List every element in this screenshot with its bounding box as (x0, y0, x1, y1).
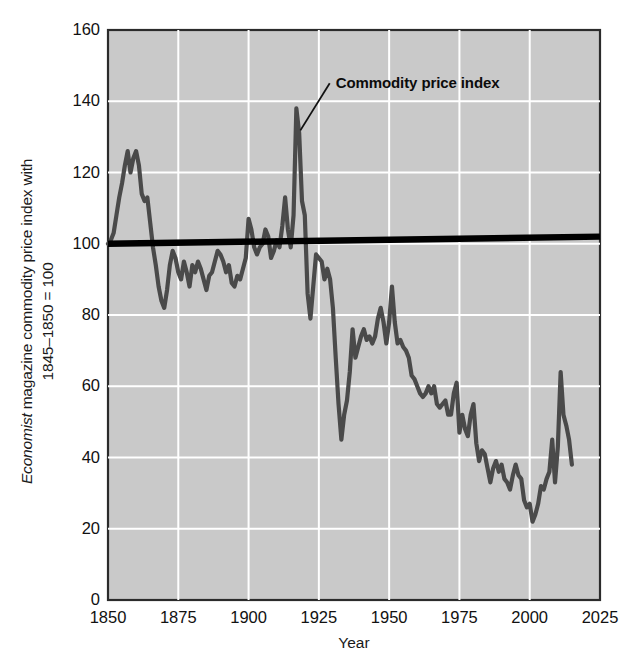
y-tick-label-140: 140 (44, 91, 100, 110)
y-tick-label-100: 100 (44, 234, 100, 253)
x-tick-label-2000: 2000 (495, 608, 565, 627)
x-tick-label-1875: 1875 (143, 608, 213, 627)
x-tick-label-1900: 1900 (214, 608, 284, 627)
annotation-commodity-price-index: Commodity price index (336, 74, 500, 91)
x-tick-label-1925: 1925 (284, 608, 354, 627)
y-tick-label-120: 120 (44, 163, 100, 182)
y-tick-label-80: 80 (44, 305, 100, 324)
y-tick-label-160: 160 (44, 20, 100, 39)
x-tick-label-1975: 1975 (424, 608, 494, 627)
commodity-price-index-chart: Economist magazine commodity price index… (0, 0, 634, 664)
y-tick-label-20: 20 (44, 519, 100, 538)
x-tick-label-1850: 1850 (73, 608, 143, 627)
y-tick-label-0: 0 (44, 590, 100, 609)
x-axis-title: Year (108, 634, 600, 652)
y-tick-label-60: 60 (44, 376, 100, 395)
y-tick-label-40: 40 (44, 448, 100, 467)
x-tick-label-2025: 2025 (565, 608, 634, 627)
x-tick-label-1950: 1950 (354, 608, 424, 627)
